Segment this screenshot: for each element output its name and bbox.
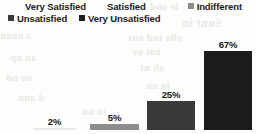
bar-chart: le and Sunt in ollo tud ons a unon not o… [0, 0, 257, 134]
bar-value-label: 2% [33, 116, 76, 127]
legend-item-indifferent[interactable]: Indifferent [188, 1, 242, 12]
legend-swatch-icon [79, 15, 85, 21]
legend-row-2: Unsatisfied Very Unsatisfied [0, 12, 257, 24]
bar-column[interactable]: 25% [147, 101, 195, 130]
bar-value-label: 25% [147, 89, 195, 100]
bar-column[interactable]: 2% [33, 128, 76, 130]
plot-area: 2% 5% 25% 67% [0, 26, 257, 134]
legend-item-very-unsatisfied[interactable]: Very Unsatisfied [79, 13, 160, 24]
bar-value-label: 67% [204, 39, 252, 50]
legend-swatch-icon [8, 15, 14, 21]
bar-column[interactable]: 5% [90, 124, 139, 130]
bar-column[interactable]: 67% [204, 51, 252, 130]
legend-item-satisfied[interactable]: Satisfied [98, 1, 146, 12]
legend-swatch-icon [16, 3, 22, 9]
legend-label: Very Unsatisfied [88, 13, 160, 24]
legend-label: Satisfied [107, 1, 146, 12]
bar-unsatisfied[interactable] [147, 101, 195, 130]
legend-swatch-icon [98, 3, 104, 9]
bar-value-label: 5% [90, 112, 139, 123]
legend-label: Very Satisfied [25, 1, 86, 12]
legend-item-unsatisfied[interactable]: Unsatisfied [8, 13, 67, 24]
legend-label: Indifferent [197, 1, 242, 12]
legend-swatch-icon [188, 3, 194, 9]
legend-item-very-satisfied[interactable]: Very Satisfied [16, 1, 86, 12]
bar-satisfied[interactable] [33, 128, 76, 130]
bar-very-unsatisfied[interactable] [204, 51, 252, 130]
legend-row-1: Very Satisfied Satisfied Indifferent [0, 0, 257, 12]
chart-legend: Very Satisfied Satisfied Indifferent Uns… [0, 0, 257, 24]
legend-label: Unsatisfied [17, 13, 67, 24]
bar-indifferent[interactable] [90, 124, 139, 130]
